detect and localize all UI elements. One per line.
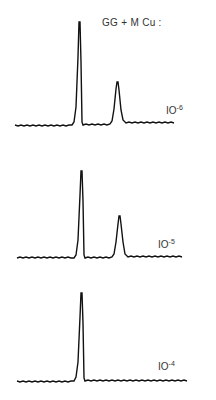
panel-1-label: IO-6 [166,104,183,116]
chart-title: GG + M Cu : [102,17,162,28]
spectrum-trace-1 [15,22,174,126]
panel-3-label: IO-4 [158,360,175,372]
panel-2-label: IO-5 [158,238,175,250]
spectra-plot [0,0,216,400]
